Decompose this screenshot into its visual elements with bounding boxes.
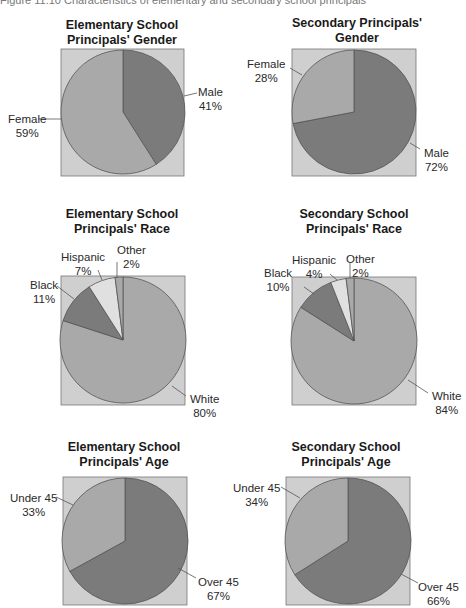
label-pct: 4% bbox=[292, 267, 336, 281]
chart-title-secondary-age: Secondary School Principals' Age bbox=[266, 440, 426, 470]
label-pct: 2% bbox=[117, 257, 146, 271]
chart-title-elementary-age: Elementary School Principals' Age bbox=[44, 440, 204, 470]
label-name: Hispanic bbox=[61, 250, 105, 264]
label-pct: 2% bbox=[346, 266, 375, 280]
title-line: Principals' Race bbox=[42, 222, 202, 237]
pie-elementary-gender bbox=[61, 49, 185, 176]
title-line: Secondary School bbox=[274, 207, 434, 222]
label-pct: 10% bbox=[264, 280, 292, 294]
pie-charts-canvas bbox=[0, 0, 466, 608]
title-line: Elementary School bbox=[42, 207, 202, 222]
label-name: Black bbox=[264, 266, 292, 280]
label-pct: 34% bbox=[233, 495, 280, 509]
label-over-45: Over 45 66% bbox=[418, 580, 459, 608]
label-pct: 80% bbox=[190, 406, 219, 420]
label-pct: 59% bbox=[8, 126, 46, 140]
label-black: Black 10% bbox=[264, 266, 292, 294]
label-pct: 67% bbox=[198, 589, 239, 603]
label-name: Other bbox=[117, 243, 146, 257]
title-line: Elementary School bbox=[42, 18, 202, 33]
title-line: Secondary School bbox=[266, 440, 426, 455]
title-line: Principals' Gender bbox=[42, 33, 202, 48]
chart-title-secondary-gender: Secondary Principals' Gender bbox=[272, 16, 442, 46]
label-name: Male bbox=[198, 85, 223, 99]
pie-secondary-age bbox=[285, 477, 411, 605]
chart-title-elementary-gender: Elementary School Principals' Gender bbox=[42, 18, 202, 48]
label-other: Other 2% bbox=[117, 243, 146, 271]
title-line: Principals' Age bbox=[266, 455, 426, 470]
title-line: Elementary School bbox=[44, 440, 204, 455]
label-name: Hispanic bbox=[292, 253, 336, 267]
label-hispanic: Hispanic 7% bbox=[61, 250, 105, 278]
label-white: White 84% bbox=[432, 389, 461, 417]
label-name: Black bbox=[30, 278, 58, 292]
label-female: Female 28% bbox=[247, 57, 285, 85]
label-pct: 66% bbox=[418, 594, 459, 608]
label-white: White 80% bbox=[190, 392, 219, 420]
label-name: Over 45 bbox=[198, 575, 239, 589]
label-pct: 41% bbox=[198, 99, 223, 113]
title-line: Gender bbox=[272, 31, 442, 46]
title-line: Principals' Race bbox=[274, 222, 434, 237]
label-name: Under 45 bbox=[233, 481, 280, 495]
label-name: Other bbox=[346, 252, 375, 266]
label-over-45: Over 45 67% bbox=[198, 575, 239, 603]
pie-elementary-race bbox=[60, 276, 186, 405]
label-pct: 28% bbox=[247, 71, 285, 85]
label-female: Female 59% bbox=[8, 112, 46, 140]
label-under-45: Under 45 34% bbox=[233, 481, 280, 509]
title-line: Secondary Principals' bbox=[272, 16, 442, 31]
label-other: Other 2% bbox=[346, 252, 375, 280]
label-under-45: Under 45 33% bbox=[10, 491, 57, 519]
label-pct: 72% bbox=[424, 160, 449, 174]
label-male: Male 72% bbox=[424, 146, 449, 174]
pie-elementary-age bbox=[62, 477, 188, 605]
title-line: Principals' Age bbox=[44, 455, 204, 470]
label-pct: 7% bbox=[61, 264, 105, 278]
label-name: White bbox=[190, 392, 219, 406]
label-name: Under 45 bbox=[10, 491, 57, 505]
chart-title-secondary-race: Secondary School Principals' Race bbox=[274, 207, 434, 237]
label-name: White bbox=[432, 389, 461, 403]
label-pct: 33% bbox=[10, 505, 57, 519]
label-black: Black 11% bbox=[30, 278, 58, 306]
chart-title-elementary-race: Elementary School Principals' Race bbox=[42, 207, 202, 237]
label-name: Female bbox=[247, 57, 285, 71]
pie-secondary-race bbox=[291, 277, 417, 405]
label-hispanic: Hispanic 4% bbox=[292, 253, 336, 281]
label-name: Over 45 bbox=[418, 580, 459, 594]
label-pct: 84% bbox=[432, 403, 461, 417]
label-male: Male 41% bbox=[198, 85, 223, 113]
pie-secondary-gender bbox=[292, 49, 416, 176]
label-name: Male bbox=[424, 146, 449, 160]
label-name: Female bbox=[8, 112, 46, 126]
label-pct: 11% bbox=[30, 292, 58, 306]
